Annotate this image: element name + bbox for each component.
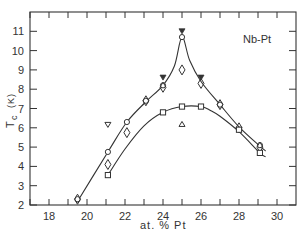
diamond-marker — [124, 128, 130, 138]
open-triangle-up-marker — [179, 121, 185, 126]
y-tick-label: 6 — [18, 122, 24, 134]
y-tick-label: 7 — [18, 103, 24, 115]
circle-marker — [105, 149, 110, 154]
y-axis-label: T c (K) — [4, 93, 19, 128]
square-marker — [160, 110, 165, 115]
square-marker — [236, 127, 241, 132]
y-tick-label: 10 — [12, 45, 24, 57]
filled-triangle-down-marker — [160, 75, 166, 80]
x-axis-label: at. % Pt — [140, 219, 187, 231]
chart: 18202224262830234567891011 Nb-Pt at. % P… — [0, 0, 304, 237]
square-marker — [179, 104, 184, 109]
x-tick-label: 26 — [195, 210, 207, 222]
x-tick-label: 30 — [271, 210, 283, 222]
filled-triangle-down-marker — [179, 29, 185, 34]
square-marker — [257, 150, 262, 155]
y-axis-label-unit: (K) — [6, 93, 16, 108]
y-axis-label-main: T — [4, 120, 16, 128]
y-tick-label: 4 — [18, 160, 24, 172]
y-tick-label: 8 — [18, 83, 24, 95]
x-tick-label: 18 — [43, 210, 55, 222]
x-tick-label: 20 — [81, 210, 93, 222]
square-marker — [105, 172, 110, 177]
circle-marker — [124, 119, 129, 124]
data-markers — [75, 29, 263, 204]
y-axis-label-sub: c — [9, 115, 19, 121]
y-tick-label: 11 — [13, 25, 24, 37]
y-tick-label: 9 — [18, 64, 24, 76]
circle-marker — [179, 34, 184, 39]
y-tick-label: 2 — [18, 199, 24, 211]
diamond-marker — [105, 159, 111, 169]
open-triangle-down-marker — [105, 122, 111, 127]
x-tick-label: 28 — [233, 210, 245, 222]
y-tick-label: 3 — [18, 180, 24, 192]
square-marker — [198, 104, 203, 109]
chart-annotation: Nb-Pt — [243, 33, 271, 45]
y-tick-label: 5 — [18, 141, 24, 153]
diamond-marker — [179, 65, 185, 75]
x-tick-label: 22 — [119, 210, 131, 222]
